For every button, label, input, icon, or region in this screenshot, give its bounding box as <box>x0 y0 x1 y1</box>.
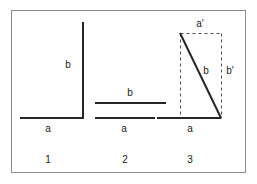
panel-3-label-a-prime: a′ <box>180 19 220 29</box>
panel-2-label-a: a <box>104 124 144 134</box>
panel-2-label-b: b <box>110 88 150 98</box>
panel-2-number: 2 <box>105 155 145 165</box>
figure-canvas: ba1ba2a′bb′a3 <box>0 0 257 184</box>
panel-1-number: 1 <box>28 155 68 165</box>
panel-1-label-a: a <box>28 124 68 134</box>
panel-1-label-b: b <box>48 60 88 70</box>
panel-3-label-b-prime: b′ <box>210 66 250 76</box>
panel-3-label-a: a <box>170 124 210 134</box>
panel-3-number: 3 <box>170 155 210 165</box>
